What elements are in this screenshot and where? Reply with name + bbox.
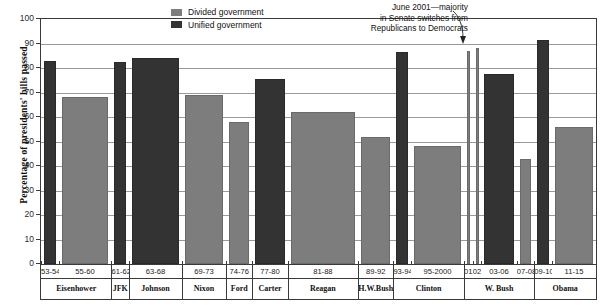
x-period-label-11-15: 11-15: [552, 265, 596, 278]
president-divider: [534, 279, 535, 299]
period-divider: [182, 265, 183, 278]
x-period-label-55-60: 55-60: [59, 265, 112, 278]
y-tick-label: 20: [0, 209, 34, 219]
y-tick-label: 40: [0, 160, 34, 170]
x-period-label-69-73: 69-73: [182, 265, 226, 278]
legend-item-unified: Unified government: [171, 19, 264, 32]
bar-07-08[interactable]: [520, 159, 532, 264]
x-period-label-07-08: 07-08: [517, 265, 535, 278]
annotation-text: June 2001—majority in Senate switches fr…: [300, 2, 468, 34]
legend: Divided government Unified government: [171, 6, 264, 31]
x-period-label-95-2000: 95-2000: [411, 265, 464, 278]
x-president-label-Ford: Ford: [226, 279, 252, 299]
chart-root: Percentage of presidents' bills passed 0…: [0, 0, 600, 307]
annotation-line-3: Republicans to Democrats: [300, 23, 468, 34]
president-divider: [358, 279, 359, 299]
bar-77-80[interactable]: [255, 79, 284, 264]
y-tick-label: 100: [0, 13, 34, 23]
x-president-label-Reagan: Reagan: [288, 279, 358, 299]
bar-55-60[interactable]: [62, 97, 109, 264]
x-period-label-63-68: 63-68: [129, 265, 182, 278]
period-divider: [111, 265, 112, 278]
president-divider: [252, 279, 253, 299]
x-period-label-09-10: 09-10: [534, 265, 552, 278]
bar-81-88[interactable]: [291, 112, 355, 264]
x-president-label-Eisenhower: Eisenhower: [41, 279, 111, 299]
period-divider: [288, 265, 289, 278]
x-president-label-Johnson: Johnson: [129, 279, 182, 299]
bar-series: [41, 19, 596, 264]
president-divider: [129, 279, 130, 299]
bar-11-15[interactable]: [555, 127, 593, 264]
x-period-label-89-92: 89-92: [358, 265, 393, 278]
period-divider: [534, 265, 535, 278]
period-divider: [252, 265, 253, 278]
x-president-label-JFK: JFK: [111, 279, 129, 299]
y-tick-label: 0: [0, 258, 34, 268]
y-tick-label: 30: [0, 185, 34, 195]
y-tick-label: 70: [0, 87, 34, 97]
x-period-label-77-80: 77-80: [252, 265, 287, 278]
x-president-label-Clinton: Clinton: [393, 279, 463, 299]
bar-74-76[interactable]: [229, 122, 249, 264]
x-president-label-Nixon: Nixon: [182, 279, 226, 299]
bar-09-10[interactable]: [537, 40, 549, 264]
annotation-arrow-icon: [452, 10, 466, 46]
president-divider: [393, 279, 394, 299]
x-period-label-93-94: 93-94: [393, 265, 411, 278]
period-divider: [464, 265, 465, 278]
x-period-label-53-54: 53-54: [41, 265, 59, 278]
annotation-line-1: June 2001—majority: [300, 2, 468, 13]
y-tick-label: 80: [0, 62, 34, 72]
y-tick-label: 10: [0, 234, 34, 244]
bar-95-2000[interactable]: [414, 146, 461, 264]
president-divider: [464, 279, 465, 299]
bar-69-73[interactable]: [185, 95, 223, 264]
y-tick-label: 60: [0, 111, 34, 121]
y-tick-mark: [36, 165, 40, 166]
x-president-label-W--Bush: W. Bush: [464, 279, 534, 299]
president-divider: [111, 279, 112, 299]
x-president-label-Obama: Obama: [534, 279, 596, 299]
x-axis-period-row: 53-5455-6061-6263-6869-7374-7677-8081-88…: [40, 265, 597, 279]
y-tick-mark: [36, 214, 40, 215]
bar-93-94[interactable]: [396, 52, 408, 264]
annotation-line-2: in Senate switches from: [300, 13, 468, 24]
x-period-label-03-06: 03-06: [481, 265, 516, 278]
y-tick-mark: [36, 116, 40, 117]
y-axis-title: Percentage of presidents' bills passed: [19, 15, 29, 235]
y-tick-mark: [36, 263, 40, 264]
period-divider: [358, 265, 359, 278]
y-tick-mark: [36, 18, 40, 19]
x-period-label-01: 01: [464, 265, 473, 278]
period-divider: [393, 265, 394, 278]
y-tick-mark: [36, 43, 40, 44]
bar-01[interactable]: [467, 51, 470, 264]
bar-03-06[interactable]: [484, 74, 513, 264]
x-period-label-74-76: 74-76: [226, 265, 252, 278]
x-president-label-H-W-Bush: H.W.Bush: [358, 279, 393, 299]
bar-02[interactable]: [476, 48, 479, 264]
y-tick-label: 90: [0, 38, 34, 48]
period-divider: [226, 265, 227, 278]
y-tick-mark: [36, 239, 40, 240]
legend-label-unified: Unified government: [188, 19, 262, 32]
y-tick-mark: [36, 141, 40, 142]
y-tick-label: 50: [0, 136, 34, 146]
president-divider: [182, 279, 183, 299]
x-axis-president-row: EisenhowerJFKJohnsonNixonFordCarterReaga…: [40, 279, 597, 300]
x-president-label-Carter: Carter: [252, 279, 287, 299]
x-period-label-61-62: 61-62: [111, 265, 129, 278]
president-divider: [288, 279, 289, 299]
x-period-label-81-88: 81-88: [288, 265, 358, 278]
y-tick-mark: [36, 92, 40, 93]
x-period-label-02: 02: [473, 265, 482, 278]
period-divider: [129, 265, 130, 278]
legend-label-divided: Divided government: [188, 6, 264, 19]
bar-63-68[interactable]: [132, 58, 179, 264]
bar-61-62[interactable]: [114, 62, 126, 264]
bar-89-92[interactable]: [361, 137, 390, 264]
bar-53-54[interactable]: [44, 61, 56, 264]
president-divider: [226, 279, 227, 299]
legend-swatch-divided: [171, 9, 182, 16]
